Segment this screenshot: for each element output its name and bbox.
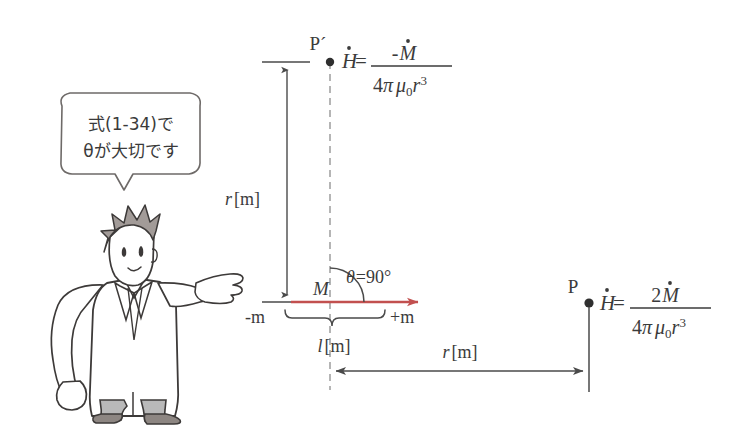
formula-right-M-dot	[668, 281, 672, 285]
magnetic-moment-label: M	[312, 278, 330, 299]
point-p-prime-label: P´	[310, 33, 327, 54]
speech-bubble: 式(1-34)で θが大切です	[61, 93, 200, 190]
point-p-prime-dot	[326, 58, 334, 66]
formula-right-H-dot	[605, 288, 609, 292]
pole-negative-label: -m	[245, 307, 265, 327]
point-p-dot	[584, 298, 593, 307]
formula-right-equals: =	[613, 291, 625, 315]
formula-top-numerator: -M	[392, 42, 418, 64]
r-vertical-label: r[m]	[225, 189, 260, 209]
character-left-hand	[57, 381, 87, 410]
character-shoe-left	[93, 414, 122, 423]
r-vertical-label-text: r[m]	[225, 189, 260, 209]
character-face	[109, 224, 154, 286]
formula-top-denominator: 4πμ0r3	[373, 73, 427, 99]
formula-top-equals: =	[355, 49, 367, 73]
figure-canvas: 式(1-34)で θが大切です	[0, 0, 742, 429]
pole-positive-label: +m	[390, 307, 414, 327]
scientist-character: 式(1-34)で θが大切です	[51, 93, 243, 424]
formula-right-numerator: 2M	[651, 284, 680, 306]
formula-p: H = 2M 4πμ0r3	[599, 281, 711, 341]
speech-bubble-line-2: θが大切です	[83, 141, 178, 161]
formula-top-M-dot	[406, 39, 410, 43]
speech-bubble-line-1: 式(1-34)で	[88, 114, 174, 134]
formula-top-H-dot	[347, 46, 351, 50]
formula-right-denominator: 4πμ0r3	[632, 315, 686, 341]
character-body	[51, 274, 243, 416]
formula-p-prime: H = -M 4πμ0r3	[341, 39, 452, 99]
character-head	[101, 205, 160, 286]
dipole-length-brace	[285, 310, 385, 326]
character-pointing-hand	[195, 274, 243, 304]
dipole-field-diagram: 式(1-34)で θが大切です	[0, 0, 742, 429]
dipole-length-label: l[m]	[317, 336, 350, 356]
r-horizontal-label: r[m]	[442, 342, 477, 362]
theta-angle-label: θ=90°	[346, 267, 391, 287]
point-p-label: P	[568, 276, 579, 297]
